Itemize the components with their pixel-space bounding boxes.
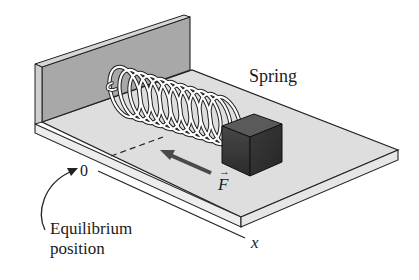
spring-mass-diagram: Spring → F 0 x Equilibrium position bbox=[0, 0, 419, 280]
force-label: F bbox=[217, 175, 229, 194]
x-axis-label: x bbox=[250, 233, 259, 252]
equilibrium-label-line1: Equilibrium bbox=[50, 219, 132, 238]
equilibrium-label-line2: position bbox=[50, 239, 105, 258]
wall-left-edge bbox=[35, 64, 42, 124]
spring-label: Spring bbox=[249, 66, 297, 86]
origin-label: 0 bbox=[80, 162, 88, 179]
